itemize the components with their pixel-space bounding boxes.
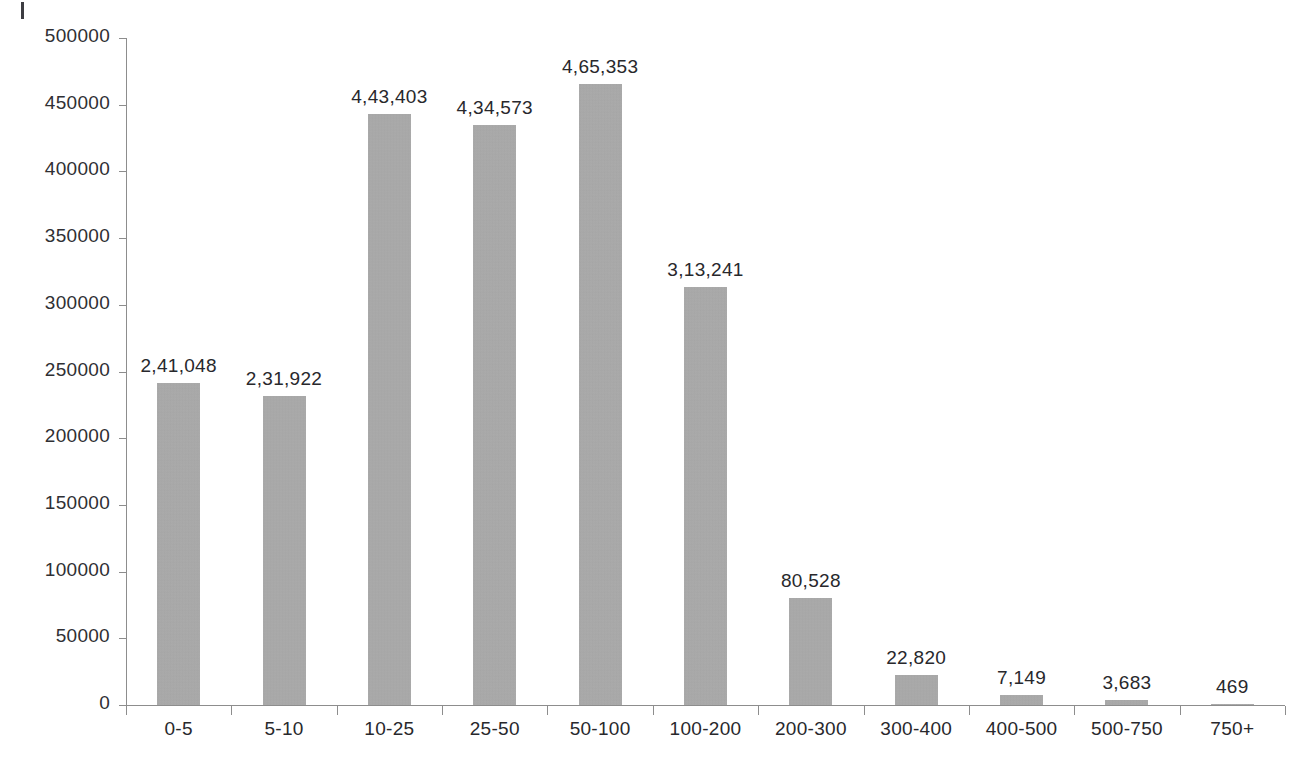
y-axis-tick-label: 250000 [0,359,110,381]
bar-value-label: 80,528 [731,570,891,592]
y-axis-tick [119,638,127,639]
x-axis-line [126,705,1285,706]
x-axis-tick [547,706,548,715]
bar-value-label: 4,34,573 [415,97,575,119]
y-axis-tick [119,305,127,306]
bar-value-label: 2,31,922 [204,368,364,390]
x-axis-tick [231,706,232,715]
y-axis-tick [119,38,127,39]
y-axis-tick-label: 350000 [0,225,110,247]
chart-page: 0500001000001500002000002500003000003500… [0,0,1312,761]
y-axis-tick-label: 500000 [0,25,110,47]
bar-value-label: 4,65,353 [520,56,680,78]
y-axis-tick-label: 450000 [0,92,110,114]
bar [157,383,200,705]
y-axis-tick-label: 300000 [0,292,110,314]
x-axis-tick [1285,706,1286,715]
y-axis-tick-label: 200000 [0,425,110,447]
x-axis-tick [442,706,443,715]
x-axis-tick [1074,706,1075,715]
x-axis-tick [864,706,865,715]
y-axis-tick [119,572,127,573]
bar-value-label: 469 [1152,676,1312,698]
y-axis-tick-label: 100000 [0,559,110,581]
y-axis-tick-label: 0 [0,692,110,714]
bar [473,125,516,705]
bar [1105,700,1148,705]
bar-chart-plot-area: 0500001000001500002000002500003000003500… [0,0,1312,761]
x-axis-tick [337,706,338,715]
y-axis-tick [119,438,127,439]
bar-value-label: 22,820 [836,647,996,669]
bar [1000,695,1043,705]
x-axis-tick [653,706,654,715]
bar [579,84,622,705]
y-axis-tick-label: 400000 [0,158,110,180]
bar-value-label: 3,13,241 [626,259,786,281]
bar [684,287,727,705]
y-axis-tick [119,105,127,106]
bottom-caption [38,745,678,759]
bar [895,675,938,705]
y-axis-tick [119,505,127,506]
x-axis-tick [126,706,127,715]
bar [368,114,411,705]
y-axis-tick-label: 50000 [0,625,110,647]
x-axis-tick [1180,706,1181,715]
y-axis-tick [119,238,127,239]
y-axis-tick [119,171,127,172]
bar [789,598,832,705]
x-axis-tick [969,706,970,715]
bar [1211,704,1254,705]
y-axis-tick-label: 150000 [0,492,110,514]
x-axis-tick [758,706,759,715]
x-axis-category-label: 750+ [1162,718,1302,740]
bar [263,396,306,705]
